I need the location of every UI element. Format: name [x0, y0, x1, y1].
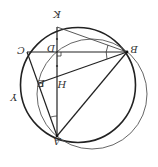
- label-circle-y: Y: [9, 92, 17, 103]
- tick-dk: [56, 38, 58, 40]
- label-d: D: [47, 43, 56, 54]
- angle-kac-arc: [51, 116, 57, 117]
- point-labels: K C D B E H A Y: [9, 9, 138, 147]
- geometry-diagram: K C D B E H A Y: [0, 0, 158, 167]
- tick-dh: [56, 65, 58, 67]
- label-c: C: [17, 45, 25, 56]
- label-e: E: [37, 78, 46, 89]
- segment-bk: [57, 27, 127, 52]
- label-a: A: [53, 136, 61, 147]
- point-b-dot: [126, 51, 129, 54]
- label-h: H: [57, 79, 67, 90]
- label-b: B: [130, 44, 138, 55]
- segment-ca: [27, 52, 57, 136]
- label-k: K: [53, 9, 62, 20]
